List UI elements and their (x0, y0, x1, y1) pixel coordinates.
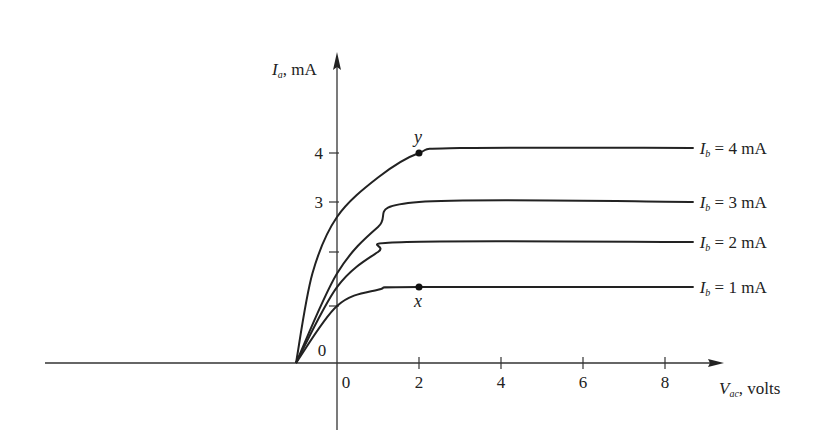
characteristic-curves-chart: 02468340Ia, mAVac, voltsIb = 4 mAIb = 3 … (0, 0, 831, 439)
y-axis-label: Ia, mA (271, 60, 317, 80)
labels: 02468340Ia, mAVac, voltsIb = 4 mAIb = 3 … (271, 60, 780, 399)
point-x (416, 284, 423, 291)
point-label-y: y (412, 127, 422, 147)
series-label: Ib = 4 mA (699, 139, 768, 159)
y-tick-label: 4 (315, 144, 324, 163)
series-label: Ib = 1 mA (699, 278, 768, 298)
x-tick-label: 8 (661, 373, 670, 392)
x-axis-arrow-icon (708, 359, 724, 367)
curve-i-b-1-ma (296, 287, 694, 363)
point-label-x: x (413, 291, 422, 311)
series-label: Ib = 2 mA (699, 233, 768, 253)
curve-i-b-3-ma (296, 200, 694, 363)
series-label: Ib = 3 mA (699, 193, 768, 213)
point-y (416, 150, 423, 157)
x-tick-label: 6 (579, 373, 588, 392)
x-tick-label: 0 (342, 373, 351, 392)
curve-i-b-4-ma (296, 148, 694, 363)
y-tick-label: 3 (315, 193, 324, 212)
x-tick-label: 2 (415, 373, 424, 392)
x-tick-label: 4 (497, 373, 506, 392)
x-axis-label: Vac, volts (719, 379, 780, 399)
origin-label: 0 (318, 341, 327, 360)
curve-i-b-2-ma (296, 241, 694, 363)
curves (296, 148, 694, 363)
